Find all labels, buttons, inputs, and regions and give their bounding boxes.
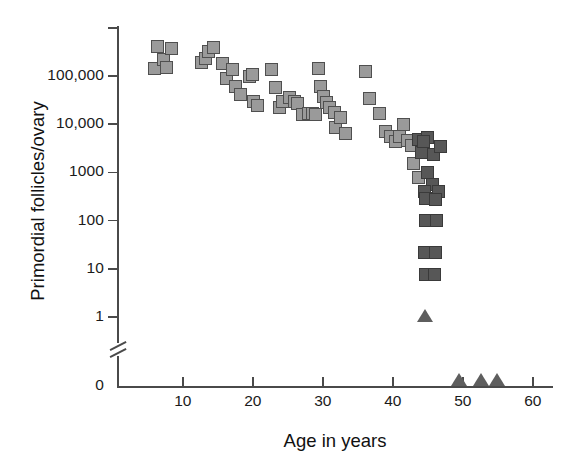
- data-point-square: [434, 140, 447, 153]
- data-point-square: [265, 63, 278, 76]
- x-tick-label: 50: [433, 392, 493, 410]
- x-tick: [252, 377, 254, 386]
- data-point-square: [207, 41, 220, 54]
- x-axis-title: Age in years: [117, 430, 553, 452]
- x-tick-label: 60: [503, 392, 563, 410]
- data-point-square: [334, 111, 347, 124]
- x-tick: [322, 377, 324, 386]
- y-axis-break-icon: [107, 340, 127, 360]
- data-point-square: [359, 65, 372, 78]
- data-point-square: [234, 88, 247, 101]
- data-point-square: [339, 127, 352, 140]
- y-tick-label: 1000: [0, 162, 118, 180]
- y-axis-title: Primordial follicles/ovary: [27, 71, 49, 331]
- data-point-triangle: [489, 373, 505, 386]
- data-point-square: [312, 62, 325, 75]
- data-point-square: [428, 268, 441, 281]
- data-point-square: [407, 157, 420, 170]
- y-tick-label: 100,000: [0, 66, 118, 84]
- data-point-square: [251, 99, 264, 112]
- data-point-square: [165, 42, 178, 55]
- data-point-square: [417, 135, 430, 148]
- y-tick-label: 10: [0, 259, 118, 277]
- x-tick: [532, 377, 534, 386]
- x-tick-label: 10: [153, 392, 213, 410]
- data-point-square: [397, 118, 410, 131]
- data-point-triangle: [473, 373, 489, 386]
- data-point-triangle: [451, 373, 467, 386]
- data-point-square: [246, 68, 259, 81]
- data-point-square: [373, 107, 386, 120]
- data-point-square: [429, 246, 442, 259]
- data-point-square: [309, 108, 322, 121]
- x-tick: [392, 377, 394, 386]
- y-tick-label: 10,000: [0, 114, 118, 132]
- data-point-square: [269, 81, 282, 94]
- data-point-square: [226, 63, 239, 76]
- data-point-square: [421, 166, 434, 179]
- data-point-square: [429, 193, 442, 206]
- data-point-square: [430, 214, 443, 227]
- y-tick: [108, 27, 117, 29]
- data-point-square: [363, 92, 376, 105]
- x-tick-label: 40: [363, 392, 423, 410]
- x-axis-line: [117, 386, 553, 388]
- data-point-square: [151, 40, 164, 53]
- scatter-plot-figure: 110100100010,000100,0000102030405060 Pri…: [0, 0, 571, 466]
- y-tick-label: 100: [0, 211, 118, 229]
- x-tick-label: 30: [293, 392, 353, 410]
- data-point-triangle: [417, 309, 433, 322]
- x-tick: [182, 377, 184, 386]
- x-tick-label: 20: [223, 392, 283, 410]
- y-tick-label-zero: 0: [0, 376, 118, 394]
- data-point-square: [160, 61, 173, 74]
- y-tick-label: 1: [0, 307, 118, 325]
